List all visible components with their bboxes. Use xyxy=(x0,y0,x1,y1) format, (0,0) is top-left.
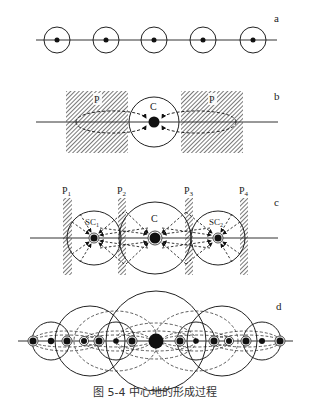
label-p3: P3 xyxy=(184,185,194,198)
periphery-bar-p4 xyxy=(240,198,248,275)
panel-a: a xyxy=(36,12,279,53)
label-sc2: SC2 xyxy=(209,217,223,228)
label-p2: P2 xyxy=(117,185,127,198)
panel-b: P P C b xyxy=(36,90,280,153)
label-sc1: SC1 xyxy=(85,217,99,228)
panel-d: d xyxy=(18,291,293,391)
panel-c: P1 P2 P3 P4 SC1 C SC2 c xyxy=(30,185,279,275)
panel-label-d: d xyxy=(276,300,282,312)
central-place-diagram: a P P C b xyxy=(0,0,310,400)
center-label: C xyxy=(150,101,157,112)
central-place-dot xyxy=(149,117,160,128)
places xyxy=(28,334,285,349)
panel-label-c: c xyxy=(274,196,279,208)
label-c: C xyxy=(151,213,158,224)
periphery-label-right: P xyxy=(209,94,215,105)
label-p4: P4 xyxy=(239,185,249,198)
periphery-label-left: P xyxy=(94,94,100,105)
panel-label-a: a xyxy=(274,12,279,24)
figure-caption: 图 5-4 中心地的形成过程 xyxy=(0,383,310,399)
label-p1: P1 xyxy=(62,185,72,198)
panel-label-b: b xyxy=(274,90,280,102)
